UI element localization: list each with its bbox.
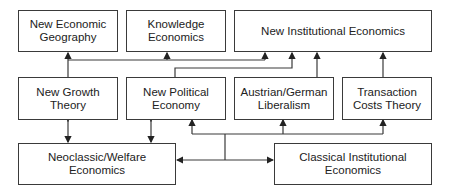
node-new-political-economy: New Political Economy — [126, 77, 226, 120]
edge-npe-nie — [175, 53, 292, 77]
node-transaction-costs-theory: Transaction Costs Theory — [342, 77, 432, 120]
node-label: Classical Institutional Economics — [299, 151, 406, 177]
node-label: New Institutional Economics — [261, 25, 405, 38]
node-austrian-german-liberalism: Austrian/German Liberalism — [234, 77, 334, 120]
node-new-growth-theory: New Growth Theory — [18, 77, 118, 120]
node-knowledge-economics: Knowledge Economics — [126, 10, 226, 52]
node-neoclassic-welfare-economics: Neoclassic/Welfare Economics — [18, 143, 176, 185]
node-label: New Economic Geography — [30, 18, 107, 44]
node-label: Knowledge Economics — [148, 18, 205, 44]
node-new-economic-geography: New Economic Geography — [18, 10, 118, 52]
node-label: Austrian/German Liberalism — [241, 86, 328, 112]
node-label: Transaction Costs Theory — [353, 86, 421, 112]
node-new-institutional-economics: New Institutional Economics — [234, 10, 432, 52]
node-label: Neoclassic/Welfare Economics — [48, 151, 146, 177]
node-classical-institutional-economics: Classical Institutional Economics — [274, 143, 432, 185]
node-label: New Political Economy — [143, 86, 209, 112]
node-label: New Growth Theory — [36, 86, 99, 112]
